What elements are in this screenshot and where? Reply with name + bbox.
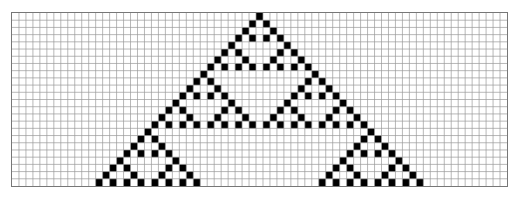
alive-cell bbox=[186, 114, 193, 121]
alive-cell bbox=[221, 49, 228, 56]
alive-cell bbox=[214, 114, 221, 121]
alive-cell bbox=[402, 164, 409, 171]
alive-cell bbox=[395, 157, 402, 164]
alive-cell bbox=[277, 107, 284, 114]
alive-cell bbox=[249, 63, 256, 70]
alive-cell bbox=[361, 121, 368, 128]
alive-cell bbox=[270, 27, 277, 34]
alive-cell bbox=[207, 78, 214, 85]
alive-cell bbox=[319, 78, 326, 85]
alive-cell bbox=[333, 164, 340, 171]
alive-cell bbox=[382, 143, 389, 150]
alive-cell bbox=[200, 71, 207, 78]
alive-cell bbox=[137, 179, 144, 186]
alive-cell bbox=[228, 100, 235, 107]
alive-cell bbox=[333, 107, 340, 114]
alive-cell bbox=[242, 27, 249, 34]
alive-cell bbox=[151, 136, 158, 143]
alive-cell bbox=[305, 78, 312, 85]
alive-cell bbox=[221, 107, 228, 114]
alive-cell bbox=[375, 179, 382, 186]
alive-cell bbox=[388, 179, 395, 186]
alive-cell bbox=[402, 179, 409, 186]
alive-cell bbox=[277, 63, 284, 70]
alive-cell bbox=[249, 35, 256, 42]
alive-cell bbox=[158, 172, 165, 179]
alive-cell bbox=[382, 172, 389, 179]
alive-cell bbox=[165, 107, 172, 114]
alive-cell bbox=[361, 179, 368, 186]
alive-cell bbox=[242, 56, 249, 63]
alive-cell bbox=[298, 85, 305, 92]
alive-cell bbox=[242, 114, 249, 121]
alive-cell bbox=[124, 179, 131, 186]
alive-cell bbox=[326, 114, 333, 121]
alive-cell bbox=[375, 136, 382, 143]
alive-cell bbox=[361, 136, 368, 143]
alive-cell bbox=[96, 179, 103, 186]
alive-cell bbox=[179, 92, 186, 99]
alive-cell bbox=[416, 179, 423, 186]
alive-cell bbox=[354, 143, 361, 150]
alive-cell bbox=[388, 150, 395, 157]
alive-cell bbox=[137, 136, 144, 143]
alive-cell bbox=[124, 150, 131, 157]
alive-cell bbox=[409, 172, 416, 179]
alive-cell bbox=[186, 172, 193, 179]
alive-cell bbox=[305, 121, 312, 128]
alive-cell bbox=[110, 164, 117, 171]
alive-cell bbox=[249, 20, 256, 27]
alive-cell bbox=[291, 63, 298, 70]
alive-cell bbox=[172, 100, 179, 107]
alive-cell bbox=[291, 92, 298, 99]
alive-cell bbox=[207, 121, 214, 128]
alive-cell bbox=[179, 164, 186, 171]
alive-cell bbox=[326, 172, 333, 179]
alive-cell bbox=[277, 49, 284, 56]
alive-cell bbox=[291, 121, 298, 128]
alive-cell bbox=[333, 179, 340, 186]
alive-cell bbox=[151, 121, 158, 128]
alive-cell bbox=[256, 13, 263, 20]
alive-cell bbox=[347, 179, 354, 186]
alive-cell bbox=[158, 143, 165, 150]
alive-cell bbox=[221, 121, 228, 128]
alive-cell bbox=[340, 100, 347, 107]
alive-cell bbox=[235, 121, 242, 128]
alive-cell bbox=[221, 63, 228, 70]
alive-cell bbox=[131, 172, 138, 179]
alive-cell bbox=[235, 49, 242, 56]
alive-cell bbox=[270, 114, 277, 121]
alive-cell bbox=[277, 121, 284, 128]
alive-cell bbox=[179, 107, 186, 114]
alive-cell bbox=[270, 56, 277, 63]
alive-cell bbox=[207, 92, 214, 99]
alive-cell bbox=[165, 179, 172, 186]
alive-cell bbox=[193, 121, 200, 128]
alive-cell bbox=[172, 157, 179, 164]
alive-cell bbox=[291, 49, 298, 56]
alive-cell bbox=[137, 150, 144, 157]
alive-cell bbox=[214, 85, 221, 92]
alive-cell bbox=[263, 20, 270, 27]
alive-cell bbox=[235, 63, 242, 70]
alive-cell bbox=[207, 63, 214, 70]
alive-cell bbox=[277, 35, 284, 42]
alive-cell bbox=[263, 35, 270, 42]
alive-cell bbox=[179, 121, 186, 128]
alive-cell bbox=[305, 63, 312, 70]
alive-cell bbox=[193, 179, 200, 186]
alive-cell bbox=[193, 92, 200, 99]
alive-cell bbox=[165, 150, 172, 157]
alive-cell bbox=[298, 114, 305, 121]
alive-cell bbox=[354, 114, 361, 121]
alive-cell bbox=[263, 121, 270, 128]
alive-cell bbox=[333, 92, 340, 99]
alive-cell bbox=[117, 157, 124, 164]
alive-cell bbox=[291, 107, 298, 114]
alive-cell bbox=[347, 107, 354, 114]
alive-cell bbox=[151, 179, 158, 186]
alive-cell bbox=[221, 92, 228, 99]
alive-cell bbox=[193, 78, 200, 85]
alive-cell bbox=[361, 150, 368, 157]
